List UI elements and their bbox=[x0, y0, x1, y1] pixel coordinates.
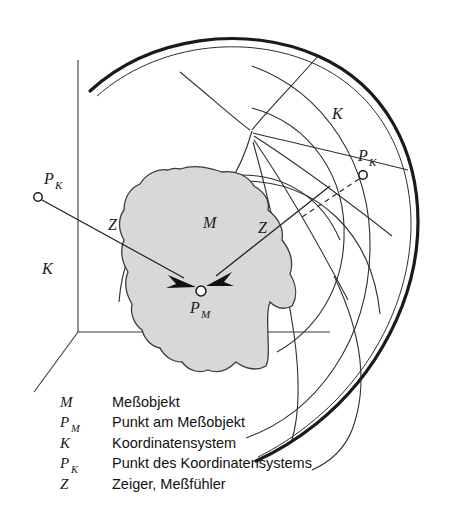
PM-point bbox=[196, 286, 206, 296]
legend-row: Z Zeiger, Meßfühler bbox=[60, 476, 226, 492]
cartesian-PK-point bbox=[34, 193, 42, 201]
measurement-diagram: K P K K P K Z bbox=[0, 0, 454, 507]
legend-description-4: Zeiger, Meßfühler bbox=[112, 476, 226, 492]
pointer-right-Z-label: Z bbox=[258, 219, 268, 236]
legend-row: M Meßobjekt bbox=[59, 394, 180, 410]
legend-description-0: Meßobjekt bbox=[112, 394, 180, 410]
spherical-PK-point bbox=[359, 171, 367, 179]
cartesian-depth-axis bbox=[34, 332, 78, 392]
legend-description-3: Punkt des Koordinatensystems bbox=[112, 455, 312, 471]
meridian-arc-3 bbox=[252, 56, 318, 130]
spherical-K-label: K bbox=[331, 105, 344, 122]
legend-symbol-1: P bbox=[59, 414, 69, 430]
figure-container: K P K K P K Z bbox=[0, 0, 454, 507]
legend-description-1: Punkt am Meßobjekt bbox=[112, 414, 245, 430]
legend-symbol-2: K bbox=[59, 435, 71, 451]
pointer-left-Z-label: Z bbox=[108, 216, 118, 233]
legend-row: P M Punkt am Meßobjekt bbox=[59, 414, 245, 434]
cartesian-PK-label-base: P bbox=[43, 170, 54, 187]
legend-symbol-subscript-3: K bbox=[70, 464, 79, 475]
PM-label-subscript: M bbox=[200, 308, 211, 320]
legend-symbol-subscript-1: M bbox=[70, 423, 81, 434]
legend-description-2: Koordinatensystem bbox=[112, 435, 236, 451]
meridian-arc-8 bbox=[292, 334, 298, 440]
legend-row: P K Punkt des Koordinatensystems bbox=[59, 455, 312, 475]
legend-row: K Koordinatensystem bbox=[59, 435, 236, 451]
meridian-arc-4 bbox=[253, 133, 408, 170]
cartesian-PK-label-subscript: K bbox=[54, 179, 63, 191]
measurement-object-shape bbox=[120, 167, 296, 372]
legend-symbol-3: P bbox=[59, 455, 69, 471]
meridian-arc-2 bbox=[180, 72, 250, 130]
spherical-PK-label-subscript: K bbox=[368, 156, 377, 168]
object-M-label: M bbox=[202, 214, 218, 231]
legend-symbol-0: M bbox=[59, 394, 74, 410]
legend-symbol-4: Z bbox=[60, 476, 69, 492]
spherical-PK-label-base: P bbox=[357, 147, 368, 164]
PM-label-base: P bbox=[189, 299, 200, 316]
meridian-arc-lower bbox=[312, 276, 361, 470]
legend: M Meßobjekt P M Punkt am Meßobjekt K Koo… bbox=[59, 394, 312, 492]
cartesian-K-label: K bbox=[41, 260, 54, 277]
